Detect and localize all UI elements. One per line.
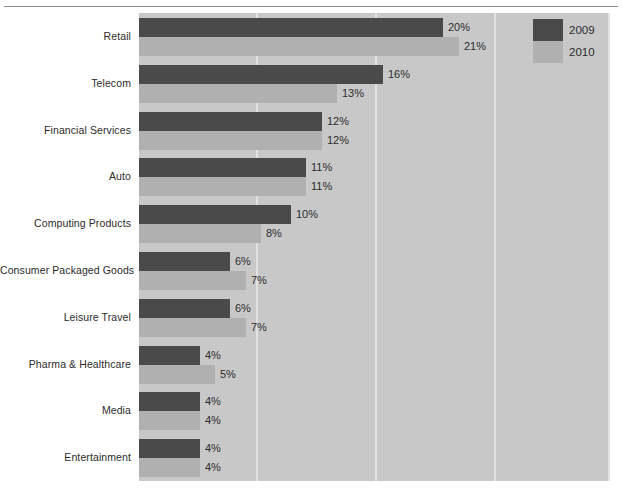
- bar-2010-5: [139, 224, 261, 243]
- legend-swatch-2010: [533, 41, 563, 63]
- legend-label-2010: 2010: [569, 41, 595, 63]
- bar-2009-6: [139, 252, 230, 271]
- bar-value-2009-7: 6%: [235, 299, 251, 318]
- bar-value-2010-7: 7%: [251, 318, 267, 337]
- bar-2009-5: [139, 205, 291, 224]
- category-labels: RetailTelecomFinancial ServicesAutoCompu…: [0, 13, 131, 481]
- gridline-right-edge: [608, 13, 610, 481]
- bar-2009-1: [139, 18, 443, 37]
- bar-value-2009-1: 20%: [448, 18, 470, 37]
- bar-2010-6: [139, 271, 246, 290]
- legend-swatch-2009: [533, 19, 563, 41]
- bar-value-2010-10: 4%: [205, 458, 221, 477]
- legend: 2009 2010: [533, 19, 607, 63]
- bar-2009-8: [139, 346, 200, 365]
- bar-2009-2: [139, 65, 383, 84]
- bar-value-2010-4: 11%: [311, 177, 332, 196]
- bar-2010-4: [139, 177, 306, 196]
- plot-area: 20%21%16%13%12%12%11%11%10%8%6%7%6%7%4%5…: [139, 13, 610, 481]
- category-label-6: Consumer Packaged Goods: [0, 264, 131, 276]
- bar-value-2009-9: 4%: [205, 392, 221, 411]
- gridline-2: [494, 13, 496, 481]
- category-label-1: Retail: [0, 30, 131, 42]
- legend-label-2009: 2009: [569, 19, 595, 41]
- bar-value-2010-5: 8%: [266, 224, 282, 243]
- bar-2009-7: [139, 299, 230, 318]
- bar-value-2010-3: 12%: [327, 131, 349, 150]
- category-label-5: Computing Products: [0, 217, 131, 229]
- bar-value-2009-3: 12%: [327, 112, 349, 131]
- bar-value-2009-10: 4%: [205, 439, 221, 458]
- category-label-3: Financial Services: [0, 124, 131, 136]
- bar-value-2009-6: 6%: [235, 252, 251, 271]
- bar-2010-10: [139, 458, 200, 477]
- category-label-7: Leisure Travel: [0, 311, 131, 323]
- category-label-8: Pharma & Healthcare: [0, 358, 131, 370]
- bar-value-2010-9: 4%: [205, 411, 221, 430]
- legend-swatch: [533, 19, 563, 63]
- top-divider-rule: [4, 6, 618, 7]
- bar-2010-1: [139, 37, 459, 56]
- bar-value-2010-8: 5%: [220, 365, 236, 384]
- bar-2009-10: [139, 439, 200, 458]
- bar-value-2009-2: 16%: [388, 65, 410, 84]
- category-label-10: Entertainment: [0, 451, 131, 463]
- bar-2009-9: [139, 392, 200, 411]
- bar-2010-8: [139, 365, 215, 384]
- bar-2009-3: [139, 112, 322, 131]
- category-label-2: Telecom: [0, 77, 131, 89]
- category-label-4: Auto: [0, 170, 131, 182]
- bar-2010-7: [139, 318, 246, 337]
- category-label-9: Media: [0, 404, 131, 416]
- bar-value-2009-5: 10%: [296, 205, 318, 224]
- bar-chart: 20%21%16%13%12%12%11%11%10%8%6%7%6%7%4%5…: [0, 0, 622, 501]
- bar-2009-4: [139, 158, 306, 177]
- bar-value-2010-2: 13%: [342, 84, 364, 103]
- bar-value-2009-8: 4%: [205, 346, 221, 365]
- bar-value-2009-4: 11%: [311, 158, 332, 177]
- bar-value-2010-1: 21%: [464, 37, 486, 56]
- bar-value-2010-6: 7%: [251, 271, 267, 290]
- bar-2010-9: [139, 411, 200, 430]
- bar-2010-2: [139, 84, 337, 103]
- bar-2010-3: [139, 131, 322, 150]
